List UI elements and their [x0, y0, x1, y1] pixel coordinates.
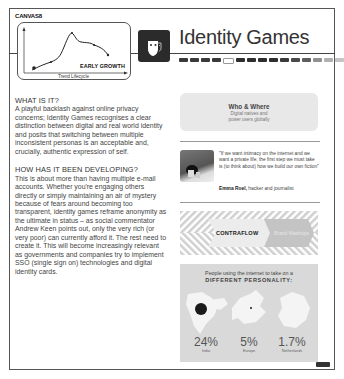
- progress-segment: [269, 58, 278, 62]
- theatre-mask-icon: [138, 30, 170, 62]
- page-title: Identity Games: [179, 26, 309, 49]
- article-body: WHAT IS IT? A playful backlash against o…: [15, 97, 167, 286]
- flow-left-label: CONTRAFLOW: [216, 230, 258, 236]
- stat-value: 5%: [229, 336, 269, 348]
- progress-segment: [313, 58, 322, 62]
- quote-text: "If we want intimacy on the internet and…: [219, 151, 319, 170]
- personality-map: People using the internet to take on a D…: [180, 264, 318, 362]
- progress-segment: [223, 58, 234, 64]
- stat-label: India: [186, 349, 226, 353]
- section-heading-what: WHAT IS IT?: [15, 97, 167, 105]
- progress-segment: [291, 58, 300, 62]
- who-where-line2: power users globally: [180, 117, 318, 122]
- progress-segment: [179, 58, 188, 62]
- progress-segment: [236, 58, 245, 62]
- divider: [180, 141, 320, 142]
- author-photo: [180, 150, 214, 182]
- trend-flow-graphic: CONTRAFLOW Brand Mashups: [180, 211, 318, 255]
- trend-lifecycle-chart: EARLY GROWTH Trend Lifecycle: [17, 22, 131, 80]
- progress-segment: [258, 58, 267, 62]
- lifecycle-curve: [18, 23, 130, 79]
- divider: [180, 202, 320, 203]
- progress-indicator: [179, 58, 344, 64]
- flow-right-label: Brand Mashups: [274, 230, 309, 236]
- stat-india: 24% India: [186, 336, 226, 353]
- progress-segment: [335, 58, 344, 62]
- brand-logo: CANVAS8: [15, 13, 42, 19]
- stat-netherlands: 1.7% Netherlands: [272, 336, 312, 353]
- progress-segment: [201, 58, 210, 62]
- progress-segment: [302, 58, 311, 62]
- progress-segment: [280, 58, 289, 62]
- progress-segment: [247, 58, 256, 62]
- stat-label: Europe: [229, 349, 269, 353]
- who-where-card: Who & Where Digital natives and power us…: [180, 93, 318, 131]
- author-name: Emma Roel,: [219, 186, 247, 191]
- x-axis-label: Trend Lifecycle: [58, 74, 89, 79]
- who-where-line1: Digital natives and: [180, 111, 318, 116]
- section-heading-how: HOW HAS IT BEEN DEVELOPING?: [15, 166, 167, 174]
- stat-label: Netherlands: [272, 349, 312, 353]
- who-where-heading: Who & Where: [180, 103, 318, 110]
- stage-label: EARLY GROWTH: [80, 63, 125, 69]
- progress-segment: [324, 58, 333, 62]
- stat-value: 24%: [186, 336, 226, 348]
- progress-segment: [212, 58, 221, 62]
- section-body-what: A playful backlash against online privac…: [15, 105, 167, 156]
- stat-europe: 5% Europe: [229, 336, 269, 353]
- section-body-how: This is about more than having multiple …: [15, 175, 167, 276]
- progress-segment: [190, 58, 199, 62]
- stat-value: 1.7%: [272, 336, 312, 348]
- quote-author: Emma Roel, hacker and journalist: [219, 186, 294, 191]
- author-role: hacker and journalist: [248, 186, 293, 191]
- canvas8-badge: [316, 362, 330, 367]
